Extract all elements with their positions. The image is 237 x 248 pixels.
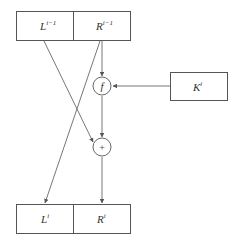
edge-left-to-xor [44,41,93,142]
function-node: f [93,77,111,95]
xor-node: + [93,138,111,156]
xor-label: + [99,142,105,153]
output-block: Li Ri [17,205,131,234]
edge-right-to-left-output [45,41,100,203]
key-block: Ki [171,73,228,101]
input-block: Li−1 Ri−1 [17,12,131,41]
feistel-diagram: Li−1 Ri−1 Ki f + Li Ri [0,0,237,248]
